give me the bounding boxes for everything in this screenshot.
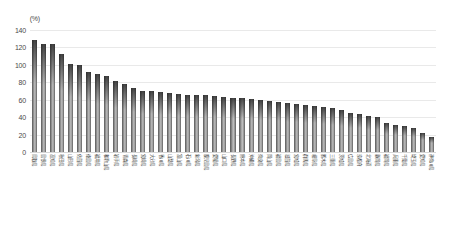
bar [68, 64, 73, 152]
bar [122, 84, 127, 152]
bar [429, 137, 434, 152]
x-axis-category-label: 三重県 [329, 154, 334, 166]
bar [140, 91, 145, 152]
x-axis-category-label: 沖縄県 [248, 154, 253, 166]
bar [348, 113, 353, 152]
bar [50, 44, 55, 152]
x-axis-category-label: 佐賀県 [77, 154, 82, 166]
bar [321, 107, 326, 152]
y-axis-tick-label: 0 [0, 149, 26, 156]
bar [131, 88, 136, 152]
x-axis-category-label: 静岡県 [374, 154, 379, 166]
x-axis-category-label: 島根県 [41, 154, 46, 166]
x-axis-category-label: 香川県 [158, 154, 163, 166]
x-axis-category-label: 鳥取県 [32, 154, 37, 166]
y-axis-tick-label: 20 [0, 131, 26, 138]
bar-series [30, 30, 436, 152]
x-axis-category-label: 熊本県 [239, 154, 244, 166]
x-axis-category-label: 福岡県 [383, 154, 388, 166]
x-axis-category-label: 新潟県 [194, 154, 199, 166]
bar [357, 114, 362, 152]
x-axis-category-label: 岡山県 [266, 154, 271, 166]
x-axis-category-label: 青森県 [122, 154, 127, 166]
bar [267, 101, 272, 152]
x-axis-category-label: 奈良県 [257, 154, 262, 166]
bar [32, 40, 37, 152]
x-axis-category-label: 神奈川県 [428, 154, 433, 170]
x-axis-category-label: 福島県 [275, 154, 280, 166]
bar [420, 133, 425, 152]
x-axis-category-label: 宮城県 [293, 154, 298, 166]
x-axis-category-label: 岐阜県 [311, 154, 316, 166]
x-axis-category-label: 群馬県 [302, 154, 307, 166]
bar [167, 93, 172, 152]
x-axis-category-label: 愛媛県 [212, 154, 217, 166]
bar [185, 95, 190, 153]
x-axis-category-label: 北海道 [365, 154, 370, 166]
x-axis-category-label: 京都府 [356, 154, 361, 166]
x-axis-category-label: 栃木県 [320, 154, 325, 166]
y-axis-tick-labels: 140120100806040200 [0, 30, 26, 152]
bar [86, 72, 91, 152]
bar [249, 99, 254, 152]
bar [59, 54, 64, 152]
x-axis-category-label: 石川県 [185, 154, 190, 166]
bar [366, 116, 371, 152]
bar [113, 81, 118, 152]
bar [104, 76, 109, 152]
bar [285, 103, 290, 152]
y-axis-tick-label: 140 [0, 27, 26, 34]
y-axis-tick-label: 40 [0, 114, 26, 121]
bar [77, 65, 82, 152]
x-axis-category-labels: 鳥取県島根県高知県秋田県山形県佐賀県徳島県福井県和歌山県岩手県青森県長崎県宮崎県… [30, 154, 436, 226]
x-axis-category-label: 愛知県 [419, 154, 424, 166]
bar [212, 96, 217, 152]
bar [258, 100, 263, 152]
bar [375, 117, 380, 152]
y-axis-tick-label: 120 [0, 44, 26, 51]
bar [276, 102, 281, 152]
bar [203, 95, 208, 152]
y-axis-tick-label: 80 [0, 79, 26, 86]
x-axis-category-label: 茨城県 [338, 154, 343, 166]
bar [303, 105, 308, 152]
bar-chart: (%) 140120100806040200 鳥取県島根県高知県秋田県山形県佐賀… [0, 0, 462, 228]
bar [402, 126, 407, 152]
bar [95, 74, 100, 152]
x-axis-category-label: 長野県 [230, 154, 235, 166]
x-axis-category-label: 山梨県 [167, 154, 172, 166]
x-axis-category-label: 大分県 [149, 154, 154, 166]
bar [312, 106, 317, 152]
x-axis-category-label: 埼玉県 [410, 154, 415, 166]
x-axis-category-label: 宮崎県 [140, 154, 145, 166]
x-axis-category-label: 長崎県 [131, 154, 136, 166]
bar [239, 98, 244, 152]
x-axis-category-label: 広島県 [347, 154, 352, 166]
gridline [30, 152, 436, 153]
bar [294, 104, 299, 152]
bar [330, 108, 335, 152]
x-axis-category-label: 山形県 [68, 154, 73, 166]
bar [339, 110, 344, 152]
bar [194, 95, 199, 152]
x-axis-category-label: 福井県 [95, 154, 100, 166]
bar [158, 92, 163, 152]
bar [41, 44, 46, 152]
x-axis-category-label: 和歌山県 [104, 154, 109, 170]
bar [411, 128, 416, 152]
bar [384, 123, 389, 152]
x-axis-category-label: 高知県 [50, 154, 55, 166]
x-axis-category-label: 山口県 [221, 154, 226, 166]
x-axis-category-label: 滋賀県 [284, 154, 289, 166]
x-axis-category-label: 千葉県 [401, 154, 406, 166]
y-axis-tick-label: 100 [0, 61, 26, 68]
bar [149, 91, 154, 152]
x-axis-category-label: 富山県 [176, 154, 181, 166]
x-axis-category-label: 兵庫県 [392, 154, 397, 166]
bar [176, 94, 181, 152]
bar [221, 97, 226, 152]
x-axis-category-label: 鹿児島県 [203, 154, 208, 170]
y-axis-unit-label: (%) [8, 14, 40, 23]
x-axis-category-label: 徳島県 [86, 154, 91, 166]
y-axis-tick-label: 60 [0, 96, 26, 103]
